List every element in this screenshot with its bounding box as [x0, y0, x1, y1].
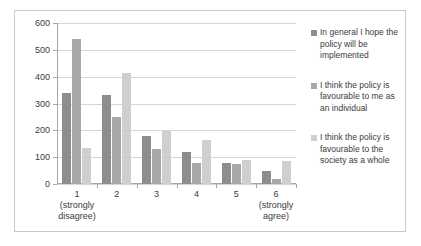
x-tick-number: 6	[259, 189, 294, 200]
legend-entry[interactable]: I think the policy is favourable to the …	[311, 132, 403, 167]
bar	[122, 73, 131, 184]
y-tick-label: 300	[35, 99, 50, 108]
bar	[72, 39, 81, 184]
bar	[182, 152, 191, 184]
x-tick-mark	[177, 184, 178, 188]
x-tick-number: 5	[234, 189, 239, 200]
y-tick-label: 0	[45, 180, 50, 189]
bar-group	[256, 23, 296, 184]
chart-container: 6005004003002001000 1(stronglydisagree)2…	[14, 10, 406, 232]
chart-legend: In general I hope the policy will be imp…	[311, 27, 403, 185]
y-tick-label: 100	[35, 153, 50, 162]
bar	[112, 117, 121, 184]
bar	[282, 161, 291, 184]
y-tick-label: 400	[35, 72, 50, 81]
bar	[152, 149, 161, 184]
bar-group	[137, 23, 177, 184]
legend-label: In general I hope the policy will be imp…	[320, 27, 403, 62]
x-tick-sublabel: (strongly	[259, 200, 294, 211]
x-tick-label: 4	[194, 189, 199, 200]
x-tick-mark	[216, 184, 217, 188]
bar	[162, 131, 171, 184]
x-tick-mark	[97, 184, 98, 188]
y-tick-mark	[53, 184, 57, 185]
y-tick-label: 500	[35, 45, 50, 54]
legend-label: I think the policy is favourable to the …	[320, 132, 403, 167]
x-tick-number: 4	[194, 189, 199, 200]
bar	[242, 160, 251, 184]
bar	[82, 148, 91, 184]
x-tick-label: 6(stronglyagree)	[259, 189, 294, 222]
plot-area: 6005004003002001000 1(stronglydisagree)2…	[57, 23, 296, 184]
bar	[222, 163, 231, 184]
x-tick-mark	[256, 184, 257, 188]
x-tick-number: 2	[114, 189, 119, 200]
bar	[232, 164, 241, 184]
bar	[142, 136, 151, 184]
bar-group	[97, 23, 137, 184]
x-tick-sublabel: agree)	[259, 211, 294, 222]
legend-label: I think the policy is favourable to me a…	[320, 80, 403, 115]
legend-swatch-icon	[311, 83, 317, 89]
bar	[262, 171, 271, 184]
legend-entry[interactable]: In general I hope the policy will be imp…	[311, 27, 403, 62]
x-tick-label: 5	[234, 189, 239, 200]
bar	[272, 179, 281, 184]
x-tick-label: 1(stronglydisagree)	[58, 189, 96, 222]
x-tick-number: 3	[154, 189, 159, 200]
x-tick-sublabel: disagree)	[58, 211, 96, 222]
bar	[202, 140, 211, 184]
y-tick-label: 600	[35, 19, 50, 28]
x-tick-mark	[296, 184, 297, 188]
x-tick-sublabel: (strongly	[58, 200, 96, 211]
bar	[192, 163, 201, 184]
x-tick-number: 1	[58, 189, 96, 200]
legend-swatch-icon	[311, 30, 317, 36]
bar-group	[216, 23, 256, 184]
legend-entry[interactable]: I think the policy is favourable to me a…	[311, 80, 403, 115]
x-tick-mark	[137, 184, 138, 188]
bar	[102, 95, 111, 184]
bar-group	[57, 23, 97, 184]
y-tick-label: 200	[35, 126, 50, 135]
x-tick-label: 2	[114, 189, 119, 200]
x-tick-label: 3	[154, 189, 159, 200]
legend-swatch-icon	[311, 135, 317, 141]
bar	[62, 93, 71, 184]
bar-group	[177, 23, 217, 184]
